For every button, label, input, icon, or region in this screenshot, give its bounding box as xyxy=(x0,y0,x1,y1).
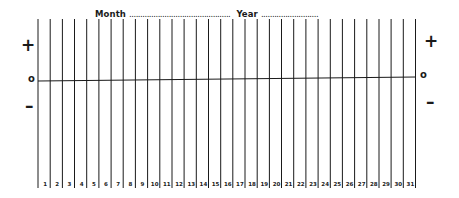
left-zero-label: o xyxy=(28,74,35,84)
day-column-lines xyxy=(38,19,416,188)
day-number: 23 xyxy=(308,181,318,187)
day-number: 28 xyxy=(369,181,379,187)
day-number: 21 xyxy=(284,181,294,187)
day-number: 22 xyxy=(296,181,306,187)
day-number: 2 xyxy=(52,181,62,187)
right-zero-label: o xyxy=(420,70,427,80)
day-number: 13 xyxy=(186,181,196,187)
day-number: 24 xyxy=(320,181,330,187)
day-number: 12 xyxy=(174,181,184,187)
day-number: 9 xyxy=(138,181,148,187)
day-number: 18 xyxy=(247,181,257,187)
day-number: 6 xyxy=(101,181,111,187)
day-number: 31 xyxy=(405,181,415,187)
day-number: 30 xyxy=(393,181,403,187)
day-number: 27 xyxy=(357,181,367,187)
day-number: 8 xyxy=(125,181,135,187)
day-number: 7 xyxy=(113,181,123,187)
day-number: 19 xyxy=(259,181,269,187)
right-minus-label: – xyxy=(426,94,435,111)
day-number: 10 xyxy=(150,181,160,187)
left-plus-label: + xyxy=(21,37,35,54)
left-minus-label: – xyxy=(25,98,34,115)
day-number: 20 xyxy=(271,181,281,187)
day-number: 25 xyxy=(332,181,342,187)
zero-baseline xyxy=(38,77,416,81)
daily-grid xyxy=(0,0,459,198)
right-plus-label: + xyxy=(424,33,438,50)
day-number: 1 xyxy=(40,181,50,187)
day-number: 16 xyxy=(223,181,233,187)
day-number: 4 xyxy=(77,181,87,187)
day-number: 29 xyxy=(381,181,391,187)
day-number: 11 xyxy=(162,181,172,187)
day-number: 17 xyxy=(235,181,245,187)
day-number: 5 xyxy=(89,181,99,187)
day-number: 15 xyxy=(211,181,221,187)
day-number: 14 xyxy=(198,181,208,187)
day-number: 26 xyxy=(345,181,355,187)
day-number: 3 xyxy=(64,181,74,187)
